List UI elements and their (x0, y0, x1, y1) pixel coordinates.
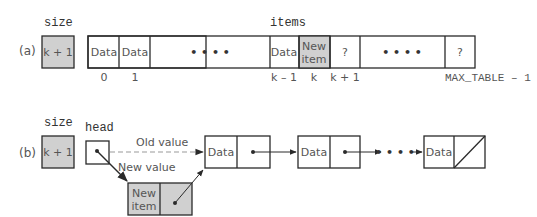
linked-list-insertion-diagram: (a) size k + 1 items Data Data • • • • D… (0, 0, 537, 217)
size-label-a: size (44, 16, 73, 30)
size-value-b: k + 1 (43, 146, 73, 159)
node-last-data: Data (426, 146, 452, 159)
index-k-minus-1: k – 1 (271, 71, 297, 84)
array-cell-k-line1: New (302, 40, 326, 53)
part-b-label: (b) (19, 146, 36, 160)
items-label: items (270, 16, 306, 30)
array-cell-0: Data (91, 46, 117, 59)
old-value-label: Old value (136, 136, 188, 149)
index-k: k (311, 71, 318, 84)
array-cell-k-plus-1: ? (342, 46, 348, 59)
list-ellipsis: • • • • (375, 146, 415, 159)
node-1-data: Data (208, 146, 234, 159)
node-2-data: Data (301, 146, 327, 159)
array-ellipsis-1: • • • • (190, 46, 230, 59)
new-node-line2: item (132, 200, 157, 213)
array-cell-1: Data (122, 46, 148, 59)
part-a-array-implementation: (a) size k + 1 items Data Data • • • • D… (19, 16, 531, 84)
new-value-label: New value (118, 161, 176, 174)
index-k-plus-1: k + 1 (330, 71, 360, 84)
part-a-label: (a) (19, 44, 36, 58)
array-cell-k-line2: item (302, 53, 327, 66)
array-cell-k-minus-1: Data (271, 46, 297, 59)
size-value-a: k + 1 (43, 46, 73, 59)
array-cell-last: ? (457, 46, 463, 59)
part-b-linked-list-implementation: (b) size k + 1 head Old value New value … (19, 116, 485, 215)
array-ellipsis-2: • • • • (382, 46, 422, 59)
size-label-b: size (44, 116, 73, 130)
index-1: 1 (132, 71, 139, 84)
index-max-table-minus-1: MAX_TABLE – 1 (445, 72, 531, 84)
index-0: 0 (101, 71, 108, 84)
new-node-line1: New (132, 187, 156, 200)
head-label: head (85, 121, 114, 135)
